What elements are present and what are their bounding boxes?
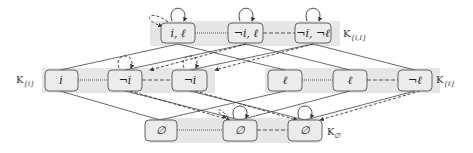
node-middle-right-3: ¬ℓ [398, 70, 432, 91]
svg-text:ℓ: ℓ [348, 74, 353, 87]
node-bottom-2: ∅ [223, 120, 257, 141]
node-middle-left-2: ¬i [108, 70, 142, 91]
node-bottom-3: ∅ [288, 120, 322, 141]
node-top-1: i, ℓ [161, 23, 195, 43]
svg-text:¬i, ℓ: ¬i, ℓ [234, 27, 259, 40]
svg-text:i: i [59, 74, 63, 87]
svg-text:¬i, ¬ℓ: ¬i, ¬ℓ [296, 27, 330, 40]
node-middle-right-2: ℓ [333, 70, 367, 91]
group-label-k-i: K{i} [16, 74, 35, 88]
group-label-k-empty: K∅ [327, 126, 341, 140]
node-bottom-1: ∅ [145, 120, 177, 141]
svg-text:∅: ∅ [156, 124, 166, 137]
svg-text:¬ℓ: ¬ℓ [408, 74, 422, 87]
svg-text:ℓ: ℓ [283, 74, 288, 87]
node-middle-right-1: ℓ [268, 70, 302, 91]
group-label-k-il: K{i,ℓ} [343, 28, 367, 42]
svg-text:i, ℓ: i, ℓ [170, 27, 186, 40]
node-top-2: ¬i, ℓ [228, 23, 263, 43]
svg-text:∅: ∅ [235, 124, 245, 137]
node-middle-left-3: ¬i [172, 70, 207, 91]
lattice-diagram: i, ℓ ¬i, ℓ ¬i, ¬ℓ i ¬i ¬i ℓ ℓ ¬ℓ ∅ ∅ [0, 0, 473, 153]
node-middle-left-1: i [45, 70, 78, 91]
node-top-3: ¬i, ¬ℓ [295, 23, 331, 43]
svg-text:¬i: ¬i [184, 74, 197, 87]
svg-text:∅: ∅ [300, 124, 310, 137]
svg-text:¬i: ¬i [119, 74, 132, 87]
